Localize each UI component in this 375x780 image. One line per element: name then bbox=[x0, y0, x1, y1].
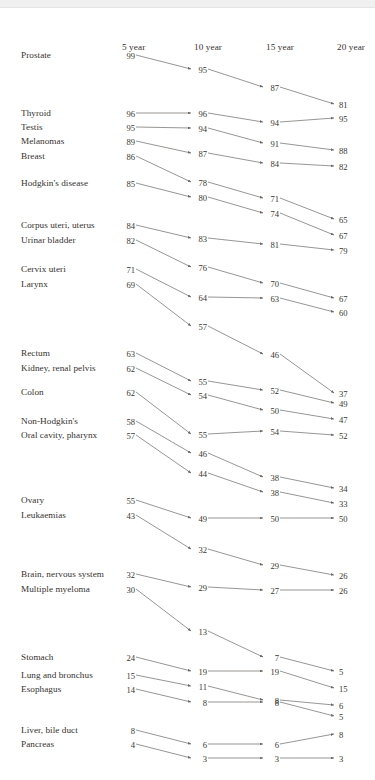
value-label: 55 bbox=[193, 430, 207, 440]
value-label: 81 bbox=[265, 240, 279, 250]
value-label: 57 bbox=[121, 431, 135, 441]
value-label: 67 bbox=[339, 294, 353, 304]
value-label: 84 bbox=[121, 221, 135, 231]
value-label: 58 bbox=[121, 417, 135, 427]
value-label: 19 bbox=[265, 667, 279, 677]
value-label: 52 bbox=[265, 386, 279, 396]
row-label: Oral cavity, pharynx bbox=[21, 430, 97, 440]
value-label: 95 bbox=[339, 114, 353, 124]
row-label: Melanomas bbox=[21, 136, 64, 146]
slope-segment bbox=[208, 453, 263, 477]
value-label: 63 bbox=[265, 294, 279, 304]
row-label: Kidney, renal pelvis bbox=[21, 363, 96, 373]
slope-segment bbox=[136, 141, 191, 153]
value-label: 4 bbox=[121, 740, 135, 750]
row-label: Multiple myeloma bbox=[21, 584, 90, 594]
value-label: 60 bbox=[339, 308, 353, 318]
row-label: Cervix uteri bbox=[21, 264, 66, 274]
slope-segment bbox=[208, 549, 263, 565]
slope-segment bbox=[208, 587, 263, 590]
slope-segment bbox=[208, 267, 263, 283]
value-label: 32 bbox=[193, 545, 207, 555]
value-label: 71 bbox=[265, 194, 279, 204]
column-header-4: 20 year bbox=[337, 42, 365, 52]
slope-segment bbox=[136, 156, 191, 182]
slope-segment bbox=[136, 269, 191, 297]
slope-segment bbox=[208, 431, 263, 434]
value-label: 8 bbox=[339, 730, 353, 740]
slope-segment bbox=[280, 431, 334, 435]
slope-segment bbox=[208, 69, 263, 87]
value-label: 62 bbox=[121, 388, 135, 398]
row-label: Brain, nervous system bbox=[21, 569, 104, 579]
slope-segment bbox=[280, 734, 334, 744]
slope-segment bbox=[136, 675, 191, 686]
row-label: Stomach bbox=[21, 652, 54, 662]
slope-segment bbox=[136, 55, 191, 69]
slope-segment bbox=[136, 730, 191, 744]
value-label: 83 bbox=[193, 234, 207, 244]
slope-segment bbox=[280, 492, 334, 503]
value-label: 76 bbox=[193, 263, 207, 273]
slope-segment bbox=[136, 500, 191, 518]
value-label: 87 bbox=[265, 83, 279, 93]
slopegraph-figure: 5 year10 year15 year20 year ProstateThyr… bbox=[0, 0, 375, 780]
value-label: 85 bbox=[121, 179, 135, 189]
slope-segment bbox=[208, 197, 263, 213]
row-label: Esophagus bbox=[21, 684, 61, 694]
row-label: Rectum bbox=[21, 348, 50, 358]
value-label: 6 bbox=[339, 701, 353, 711]
value-label: 29 bbox=[265, 561, 279, 571]
value-label: 14 bbox=[121, 685, 135, 695]
row-label: Urinar bladder bbox=[21, 235, 76, 245]
value-label: 19 bbox=[193, 667, 207, 677]
value-label: 89 bbox=[121, 137, 135, 147]
slope-segment bbox=[136, 574, 191, 587]
slope-segment bbox=[136, 392, 191, 434]
slope-segment bbox=[208, 395, 263, 410]
slope-segment bbox=[280, 198, 334, 219]
slope-segment bbox=[280, 410, 334, 419]
value-label: 7 bbox=[265, 653, 279, 663]
slope-segment bbox=[280, 283, 334, 298]
column-header-3: 15 year bbox=[266, 42, 294, 52]
value-label: 95 bbox=[193, 65, 207, 75]
value-label: 82 bbox=[339, 162, 353, 172]
slope-segment bbox=[208, 128, 263, 143]
value-label: 65 bbox=[339, 215, 353, 225]
value-label: 99 bbox=[121, 51, 135, 61]
row-label: Thyroid bbox=[21, 108, 51, 118]
value-label: 47 bbox=[339, 415, 353, 425]
slope-segment bbox=[280, 657, 334, 671]
row-label: Hodgkin's disease bbox=[21, 178, 88, 188]
slope-lines bbox=[136, 55, 334, 758]
slope-segment bbox=[280, 118, 334, 122]
slope-segment bbox=[208, 153, 263, 163]
slope-segment bbox=[280, 390, 334, 403]
value-label: 38 bbox=[265, 488, 279, 498]
value-label: 11 bbox=[193, 682, 207, 692]
row-label: Larynx bbox=[21, 279, 48, 289]
slope-segment bbox=[136, 240, 191, 267]
value-label: 94 bbox=[265, 118, 279, 128]
slope-segment bbox=[136, 183, 191, 197]
slope-segment bbox=[136, 589, 191, 631]
value-label: 96 bbox=[121, 109, 135, 119]
value-label: 63 bbox=[121, 349, 135, 359]
value-label: 30 bbox=[121, 585, 135, 595]
value-label: 46 bbox=[265, 350, 279, 360]
slope-segment bbox=[280, 565, 334, 575]
value-label: 34 bbox=[339, 484, 353, 494]
slope-segment bbox=[208, 381, 263, 390]
slope-segment bbox=[136, 127, 191, 128]
slope-segment bbox=[280, 244, 334, 250]
slope-segment bbox=[280, 213, 334, 235]
row-label: Pancreas bbox=[21, 739, 54, 749]
value-label: 78 bbox=[193, 178, 207, 188]
slope-lines-layer bbox=[0, 0, 375, 780]
value-label: 50 bbox=[265, 406, 279, 416]
slope-segment bbox=[136, 225, 191, 238]
row-label: Colon bbox=[21, 387, 44, 397]
value-label: 86 bbox=[121, 152, 135, 162]
slope-segment bbox=[280, 671, 334, 688]
